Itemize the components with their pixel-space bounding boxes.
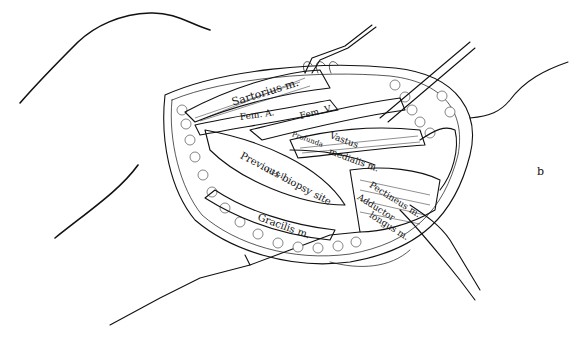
incision-inner bbox=[171, 74, 459, 256]
retractor-bottom bbox=[400, 205, 480, 300]
spermatic-cord bbox=[420, 128, 457, 190]
thigh-outline-lower bbox=[55, 165, 138, 238]
thigh-outline-upper bbox=[20, 13, 210, 103]
panel-letter: b bbox=[537, 166, 544, 177]
incision-outer bbox=[164, 65, 473, 263]
groin-crease bbox=[110, 255, 250, 325]
hip-outline-right bbox=[470, 62, 568, 118]
illustration-artwork bbox=[0, 0, 579, 340]
anatomical-illustration: Sartorius m. Fem. A. Fem. V. Profunda Va… bbox=[0, 0, 579, 340]
